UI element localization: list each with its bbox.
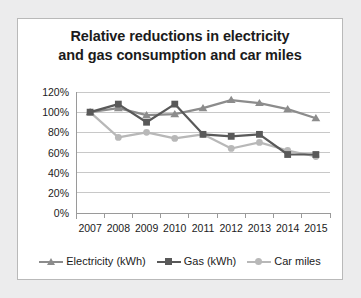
data-point-marker xyxy=(143,119,150,126)
x-axis-tick-label: 2015 xyxy=(304,222,328,234)
data-point-marker xyxy=(228,145,235,152)
legend-swatch-car-miles xyxy=(247,256,271,267)
chart-panel: Relative reductions in electricity and g… xyxy=(17,18,343,280)
x-axis-tick-label: 2010 xyxy=(163,222,187,234)
y-axis-tick-label: 20% xyxy=(48,187,69,199)
triangle-marker-icon xyxy=(47,258,55,265)
data-point-marker xyxy=(284,151,291,158)
legend-swatch-gas xyxy=(157,256,181,267)
data-point-marker xyxy=(171,101,178,108)
legend-item-gas[interactable]: Gas (kWh) xyxy=(157,255,237,267)
square-marker-icon xyxy=(165,258,172,265)
x-axis-tick-label: 2007 xyxy=(78,222,102,234)
data-point-marker xyxy=(200,131,207,138)
x-axis-tick-label: 2008 xyxy=(107,222,131,234)
data-point-marker xyxy=(228,133,235,140)
y-axis-tick-label: 100% xyxy=(42,106,69,118)
y-axis-tick-label: 40% xyxy=(48,167,69,179)
plot-area: 120%100%80%60%40%20%0%200720082009201020… xyxy=(18,19,344,281)
circle-marker-icon xyxy=(255,258,262,265)
data-point-marker xyxy=(143,129,150,136)
legend-item-car-miles[interactable]: Car miles xyxy=(247,255,320,267)
legend-label-gas: Gas (kWh) xyxy=(184,255,237,267)
x-axis-tick-label: 2011 xyxy=(192,222,215,234)
data-point-marker xyxy=(312,151,319,158)
chart-legend: Electricity (kWh) Gas (kWh) Car miles xyxy=(18,255,342,267)
data-point-marker xyxy=(115,101,122,108)
x-axis-tick-label: 2013 xyxy=(248,222,272,234)
data-point-marker xyxy=(87,109,94,116)
data-point-marker xyxy=(256,131,263,138)
legend-label-car-miles: Car miles xyxy=(274,255,320,267)
legend-item-electricity[interactable]: Electricity (kWh) xyxy=(39,255,145,267)
y-axis-tick-label: 80% xyxy=(48,126,69,138)
x-axis-tick-label: 2014 xyxy=(276,222,300,234)
legend-swatch-electricity xyxy=(39,256,63,267)
x-axis-tick-label: 2009 xyxy=(135,222,159,234)
y-axis-tick-label: 0% xyxy=(54,207,69,219)
data-point-marker xyxy=(256,139,263,146)
y-axis-tick-label: 120% xyxy=(42,86,69,98)
x-axis-tick-label: 2012 xyxy=(220,222,244,234)
series-line xyxy=(90,104,316,154)
line-chart-svg: 120%100%80%60%40%20%0%200720082009201020… xyxy=(18,19,344,281)
data-point-marker xyxy=(115,134,122,141)
y-axis-tick-label: 60% xyxy=(48,147,69,159)
legend-label-electricity: Electricity (kWh) xyxy=(66,255,145,267)
data-point-marker xyxy=(171,135,178,142)
